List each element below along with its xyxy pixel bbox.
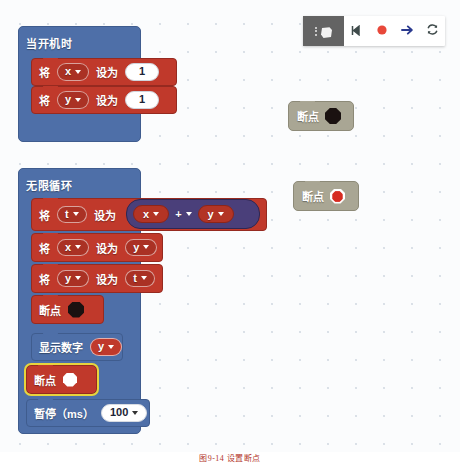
floating-breakpoint-block-red[interactable]: 断点 bbox=[293, 181, 359, 211]
number-value: 1 bbox=[139, 94, 145, 106]
on-start-title: 当开机时 bbox=[26, 35, 72, 51]
chevron-down-icon bbox=[75, 70, 81, 74]
operand-right-dropdown[interactable]: y bbox=[198, 205, 234, 223]
set-verb-label: 将 bbox=[39, 240, 50, 256]
chevron-down-icon bbox=[186, 212, 192, 216]
set-verb-label: 将 bbox=[39, 64, 50, 80]
refresh-button[interactable] bbox=[420, 16, 445, 46]
block-notch bbox=[43, 86, 58, 90]
block-notch bbox=[43, 295, 58, 299]
chevron-down-icon bbox=[73, 212, 79, 216]
variable-name: x bbox=[65, 66, 71, 78]
operand-left-dropdown[interactable]: x bbox=[133, 205, 169, 223]
set-variable-block[interactable]: 将 x 设为 1 bbox=[31, 58, 177, 86]
chevron-down-icon bbox=[75, 98, 81, 102]
block-notch bbox=[43, 264, 58, 268]
set-to-label: 设为 bbox=[94, 207, 116, 223]
breakpoint-octagon-icon[interactable] bbox=[63, 373, 77, 387]
breakpoint-block-inactive[interactable]: 断点 bbox=[31, 295, 104, 324]
editor-toolbar bbox=[303, 16, 445, 46]
block-notch bbox=[43, 58, 58, 62]
pause-block[interactable]: 暂停（ms） 100 bbox=[26, 399, 150, 427]
block-notch bbox=[38, 365, 53, 369]
floating-breakpoint-block-black[interactable]: 断点 bbox=[288, 101, 354, 131]
chevron-down-icon bbox=[132, 411, 138, 415]
blocks-canvas[interactable]: 当开机时 将 x 设为 1 将 y 设为 1 无限循环 将 t bbox=[0, 0, 460, 452]
breakpoint-label: 断点 bbox=[302, 188, 324, 204]
operator-value: + bbox=[175, 208, 181, 220]
breakpoint-label: 断点 bbox=[297, 108, 319, 124]
forever-loop-title: 无限循环 bbox=[26, 177, 72, 193]
set-variable-block[interactable]: 将 y 设为 1 bbox=[31, 86, 177, 114]
step-button[interactable] bbox=[344, 16, 369, 46]
variable-name: y bbox=[65, 273, 71, 285]
set-variable-block[interactable]: 将 x 设为 y bbox=[31, 233, 163, 262]
block-notch bbox=[38, 399, 53, 403]
breakpoint-label: 断点 bbox=[34, 372, 56, 388]
operator-dropdown[interactable]: + bbox=[175, 208, 191, 220]
set-variable-block[interactable]: 将 y 设为 t bbox=[31, 264, 163, 293]
breakpoint-octagon-icon[interactable] bbox=[325, 108, 341, 124]
block-notch bbox=[43, 198, 58, 202]
variable-dropdown-t[interactable]: t bbox=[57, 206, 87, 224]
variable-name: t bbox=[65, 209, 69, 221]
value-name: t bbox=[133, 273, 137, 285]
block-notch bbox=[43, 233, 58, 237]
breakpoint-octagon-icon[interactable] bbox=[330, 189, 345, 204]
number-input-1[interactable]: 1 bbox=[125, 63, 159, 81]
block-notch bbox=[43, 333, 58, 337]
show-number-label: 显示数字 bbox=[39, 339, 83, 355]
toolbar-menu-group[interactable] bbox=[303, 16, 344, 46]
show-number-block[interactable]: 显示数字 y bbox=[31, 333, 123, 361]
breakpoint-label: 断点 bbox=[39, 302, 61, 318]
chevron-down-icon bbox=[75, 276, 81, 280]
set-to-label: 设为 bbox=[96, 240, 118, 256]
microbit-logo-icon[interactable] bbox=[320, 25, 333, 38]
variable-dropdown-y[interactable]: y bbox=[57, 270, 89, 288]
value-dropdown-t[interactable]: t bbox=[125, 270, 155, 288]
arithmetic-reporter-block[interactable]: x + y bbox=[126, 199, 260, 229]
set-to-label: 设为 bbox=[96, 92, 118, 108]
chevron-down-icon bbox=[75, 245, 81, 249]
set-to-label: 设为 bbox=[96, 64, 118, 80]
show-number-value: y bbox=[98, 341, 104, 353]
breakpoint-block-selected[interactable]: 断点 bbox=[26, 365, 97, 394]
number-value: 1 bbox=[139, 66, 145, 78]
variable-dropdown-x[interactable]: x bbox=[57, 63, 89, 81]
chevron-down-icon bbox=[143, 245, 149, 249]
record-button[interactable] bbox=[369, 16, 394, 46]
show-number-value-dropdown[interactable]: y bbox=[90, 338, 122, 356]
run-button[interactable] bbox=[395, 16, 420, 46]
chevron-down-icon bbox=[153, 212, 159, 216]
chevron-down-icon bbox=[108, 345, 114, 349]
value-dropdown-y[interactable]: y bbox=[125, 239, 157, 257]
pause-label: 暂停（ms） bbox=[34, 405, 94, 421]
variable-name: x bbox=[65, 242, 71, 254]
figure-caption: 图9-14 设置断点 bbox=[0, 452, 460, 468]
kebab-menu-icon[interactable] bbox=[315, 27, 317, 36]
set-verb-label: 将 bbox=[39, 207, 50, 223]
operand-left-value: x bbox=[143, 208, 149, 220]
record-icon bbox=[376, 22, 388, 40]
chevron-down-icon bbox=[141, 276, 147, 280]
step-icon bbox=[351, 22, 362, 40]
pause-duration-dropdown[interactable]: 100 bbox=[101, 404, 147, 422]
operand-right-value: y bbox=[208, 208, 214, 220]
chevron-down-icon bbox=[218, 212, 224, 216]
number-input-1[interactable]: 1 bbox=[125, 91, 159, 109]
pause-duration-value: 100 bbox=[110, 407, 128, 419]
variable-dropdown-y[interactable]: y bbox=[57, 91, 89, 109]
refresh-icon bbox=[426, 22, 439, 40]
breakpoint-octagon-icon[interactable] bbox=[68, 302, 84, 318]
value-name: y bbox=[133, 242, 139, 254]
run-arrow-icon bbox=[401, 22, 414, 40]
block-notch bbox=[305, 181, 320, 185]
block-notch bbox=[300, 101, 315, 105]
variable-name: y bbox=[65, 94, 71, 106]
set-verb-label: 将 bbox=[39, 92, 50, 108]
variable-dropdown-x[interactable]: x bbox=[57, 239, 89, 257]
set-verb-label: 将 bbox=[39, 271, 50, 287]
set-to-label: 设为 bbox=[96, 271, 118, 287]
